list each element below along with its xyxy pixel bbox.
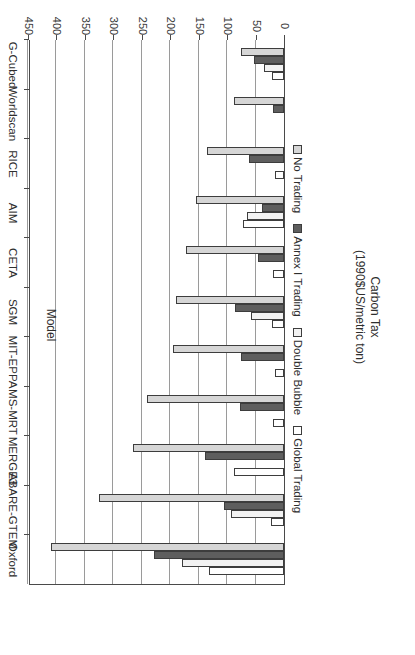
bar-slot bbox=[30, 220, 284, 228]
bar bbox=[273, 419, 284, 427]
bar bbox=[264, 64, 284, 72]
bar bbox=[207, 147, 284, 155]
bar bbox=[235, 304, 284, 312]
chart-figure-rotated: 050100150200250300350400450 OxfordABARE-… bbox=[0, 0, 415, 655]
bar bbox=[186, 246, 284, 254]
legend-item[interactable]: Double Bubble bbox=[292, 328, 304, 415]
bar-slot bbox=[30, 510, 284, 518]
bar-slot bbox=[30, 353, 284, 361]
bar-slot bbox=[30, 48, 284, 56]
bar bbox=[147, 395, 284, 403]
bar bbox=[243, 220, 284, 228]
category-tick bbox=[24, 89, 29, 90]
bar-slot bbox=[30, 121, 284, 129]
bar bbox=[154, 551, 284, 559]
bar-group bbox=[30, 287, 284, 337]
bar-slot bbox=[30, 155, 284, 163]
value-tick-label: 350 bbox=[80, 6, 92, 46]
bar bbox=[272, 72, 284, 80]
legend-label: Global Trading bbox=[292, 438, 304, 513]
value-tick-label: 200 bbox=[165, 6, 177, 46]
value-axis-title-line1: Carbon Tax bbox=[367, 217, 382, 397]
bar bbox=[251, 312, 284, 320]
category-tick bbox=[24, 287, 29, 288]
bar-group bbox=[30, 386, 284, 436]
bar bbox=[249, 155, 284, 163]
bar-slot bbox=[30, 518, 284, 526]
bar-slot bbox=[30, 543, 284, 551]
bar bbox=[133, 444, 284, 452]
category-tick bbox=[24, 336, 29, 337]
bar bbox=[241, 48, 284, 56]
bar-slot bbox=[30, 204, 284, 212]
bar-slot bbox=[30, 163, 284, 171]
bar bbox=[240, 403, 284, 411]
bar-slot bbox=[30, 452, 284, 460]
legend-swatch-icon bbox=[294, 224, 303, 233]
bar-slot bbox=[30, 254, 284, 262]
carbon-tax-bar-chart: 050100150200250300350400450 OxfordABARE-… bbox=[0, 0, 415, 655]
bar-slot bbox=[30, 395, 284, 403]
value-tick-label: 0 bbox=[279, 6, 291, 46]
bar-group bbox=[30, 138, 284, 188]
legend-item[interactable]: Annex I Trading bbox=[292, 224, 304, 317]
bar-slot bbox=[30, 72, 284, 80]
category-axis-title: Model bbox=[44, 295, 58, 355]
bar bbox=[234, 97, 284, 105]
bar bbox=[273, 105, 284, 113]
value-axis: 050100150200250300350400450 bbox=[29, 34, 285, 40]
bar bbox=[258, 254, 284, 262]
bar-slot bbox=[30, 567, 284, 575]
bar bbox=[182, 559, 284, 567]
bar-slot bbox=[30, 460, 284, 468]
bar bbox=[241, 353, 284, 361]
bar-group bbox=[30, 237, 284, 287]
bar-slot bbox=[30, 320, 284, 328]
bar-slot bbox=[30, 411, 284, 419]
legend-item[interactable]: No Trading bbox=[292, 145, 304, 213]
category-tick bbox=[24, 534, 29, 535]
bar-group bbox=[30, 336, 284, 386]
value-tick-label: 100 bbox=[222, 6, 234, 46]
bar-slot bbox=[30, 196, 284, 204]
bar-slot bbox=[30, 502, 284, 510]
bar bbox=[272, 320, 284, 328]
bar-group bbox=[30, 534, 284, 584]
category-tick bbox=[24, 237, 29, 238]
legend-swatch-icon bbox=[294, 145, 303, 154]
bar-slot bbox=[30, 270, 284, 278]
bar bbox=[234, 468, 284, 476]
bar-slot bbox=[30, 105, 284, 113]
bar-slot bbox=[30, 369, 284, 377]
bar bbox=[205, 452, 284, 460]
category-tick bbox=[24, 39, 29, 40]
legend-label: Double Bubble bbox=[292, 340, 304, 415]
bar bbox=[275, 171, 284, 179]
bar-slot bbox=[30, 444, 284, 452]
bar-group bbox=[30, 188, 284, 238]
category-tick bbox=[24, 435, 29, 436]
bar bbox=[254, 56, 284, 64]
bar-slot bbox=[30, 559, 284, 567]
bar-slot bbox=[30, 468, 284, 476]
bar-slot bbox=[30, 494, 284, 502]
bar-group bbox=[30, 39, 284, 89]
bar bbox=[224, 502, 284, 510]
bar-slot bbox=[30, 147, 284, 155]
bar bbox=[262, 204, 284, 212]
category-tick bbox=[24, 485, 29, 486]
bar-slot bbox=[30, 246, 284, 254]
bar-group bbox=[30, 435, 284, 485]
value-tick-label: 250 bbox=[137, 6, 149, 46]
bar-slot bbox=[30, 113, 284, 121]
legend-swatch-icon bbox=[294, 426, 303, 435]
bar-slot bbox=[30, 56, 284, 64]
bar-slot bbox=[30, 551, 284, 559]
value-tick-label: 150 bbox=[194, 6, 206, 46]
legend-item[interactable]: Global Trading bbox=[292, 426, 304, 513]
bar bbox=[173, 345, 284, 353]
value-tick-label: 50 bbox=[251, 6, 263, 46]
bar-slot bbox=[30, 345, 284, 353]
bar bbox=[196, 196, 284, 204]
value-tick-label: 300 bbox=[108, 6, 120, 46]
